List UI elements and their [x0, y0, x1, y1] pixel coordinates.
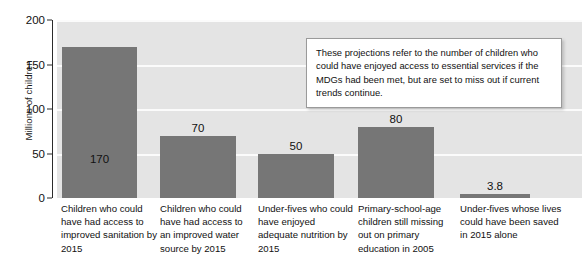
bar-value-label-lives-saved: 3.8: [487, 180, 503, 192]
category-label-sanitation: Children who could have had access to im…: [61, 202, 159, 255]
category-label-water-source: Children who could have had access to an…: [160, 202, 254, 255]
bar-chart-figure: Millions of children 200 150 100 50 0 17…: [0, 0, 582, 273]
category-label-primary-education: Primary-school-age children still missin…: [358, 202, 457, 255]
bar-nutrition[interactable]: [258, 154, 334, 199]
x-axis-category-labels: Children who could have had access to im…: [57, 202, 582, 273]
annotation-callout: These projections refer to the number of…: [306, 38, 562, 108]
y-axis-ticks: 200 150 100 50 0: [0, 0, 53, 273]
bar-value-label-water-source: 70: [192, 122, 205, 134]
category-label-nutrition: Under-fives who could have enjoyed adequ…: [258, 202, 354, 255]
y-tick-label-0: 0: [39, 192, 45, 204]
bar-sanitation[interactable]: [62, 47, 137, 198]
bar-value-label-sanitation: 170: [90, 153, 109, 165]
y-tick-label-50: 50: [32, 148, 45, 160]
bar-value-label-primary-education: 80: [390, 113, 403, 125]
y-tick-label-150: 150: [26, 59, 45, 71]
bar-lives-saved[interactable]: [460, 194, 530, 198]
y-tick-label-100: 100: [26, 103, 45, 115]
y-axis-spine: [52, 20, 53, 198]
bar-primary-education[interactable]: [358, 127, 434, 198]
category-label-lives-saved: Under-fives whose lives could have been …: [460, 202, 562, 242]
bar-value-label-nutrition: 50: [290, 140, 303, 152]
bar-water-source[interactable]: [160, 136, 236, 198]
y-tick-label-200: 200: [26, 14, 45, 26]
gridline-200: [57, 20, 582, 22]
